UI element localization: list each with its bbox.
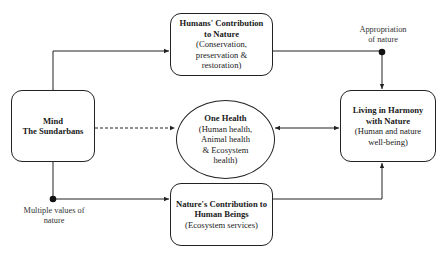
node-one-health: One Health (Human health, Animal health …: [176, 100, 275, 179]
junction-dot-icon: [379, 49, 386, 56]
edge-mind-to-humans: [53, 51, 169, 90]
node-title: Living in Harmony: [353, 105, 424, 116]
node-mind-sundarbans: Mind The Sundarbans: [11, 90, 95, 162]
node-subtitle: (Conservation,: [196, 39, 247, 50]
node-subtitle: well-being): [368, 137, 408, 148]
edge-mind-to-natures: [50, 162, 169, 202]
node-title: One Health: [204, 113, 246, 124]
edge-humans-to-harmony: [273, 49, 385, 89]
node-subtitle: (Ecosystem services): [185, 220, 258, 231]
node-title: Humans' Contribution: [180, 18, 264, 29]
node-title: The Sundarbans: [23, 126, 84, 137]
edge-natures-to-harmony: [273, 163, 382, 199]
node-subtitle: & Ecosystem: [202, 145, 248, 156]
node-living-in-harmony: Living in Harmony with Nature (Human and…: [340, 90, 436, 162]
node-subtitle: Animal health: [201, 134, 250, 145]
label-line: Appropriation: [348, 25, 418, 35]
node-subtitle: (Human health,: [199, 124, 252, 135]
label-multiple-values-of-nature: Multiple values of nature: [14, 206, 94, 226]
node-natures-contribution: Nature's Contribution to Human Beings (E…: [170, 183, 273, 246]
node-title: Human Beings: [194, 209, 248, 220]
node-title: Nature's Contribution to: [176, 199, 267, 210]
node-humans-contribution: Humans' Contribution to Nature (Conserva…: [170, 13, 273, 76]
node-subtitle: restoration): [202, 60, 242, 71]
label-line: Multiple values of: [14, 206, 94, 216]
node-title: Mind: [43, 116, 63, 127]
label-line: nature: [14, 216, 94, 226]
junction-dot-icon: [50, 196, 57, 203]
node-title: to Nature: [204, 29, 239, 40]
node-subtitle: preservation &: [196, 50, 247, 61]
node-subtitle: health): [214, 155, 238, 166]
label-appropriation-of-nature: Appropriation of nature: [348, 25, 418, 45]
label-line: of nature: [348, 35, 418, 45]
node-title: with Nature: [366, 116, 410, 127]
node-subtitle: (Human and nature: [355, 126, 421, 137]
